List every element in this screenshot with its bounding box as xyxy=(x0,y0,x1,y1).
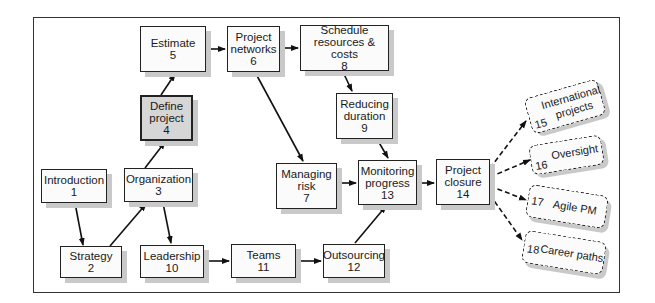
node-monitoring-progress[interactable]: Monitoring progress 13 xyxy=(358,160,417,205)
edge-9-13 xyxy=(377,139,388,158)
node-label: Estimate xyxy=(151,37,196,49)
edge-8-9 xyxy=(343,72,352,91)
node-schedule-resources-costs[interactable]: Schedule resources & costs 8 xyxy=(300,25,389,71)
node-label-line1: Define xyxy=(150,100,183,112)
node-number: 18 xyxy=(526,242,540,256)
node-label-line2: networks xyxy=(230,43,276,55)
node-project-closure[interactable]: Project closure 14 xyxy=(436,159,490,205)
node-number: 5 xyxy=(170,49,176,61)
node-teams[interactable]: Teams 11 xyxy=(231,244,296,278)
edge-1-2 xyxy=(75,203,83,245)
node-introduction[interactable]: Introduction 1 xyxy=(41,169,107,203)
node-number: 16 xyxy=(534,158,548,172)
node-number: 14 xyxy=(457,188,470,200)
node-number: 7 xyxy=(303,192,309,204)
node-number: 12 xyxy=(348,261,361,273)
edge-4-5 xyxy=(161,74,175,95)
node-number: 17 xyxy=(531,194,545,208)
edge-3-10 xyxy=(163,203,171,243)
node-define-project[interactable]: Define project 4 xyxy=(140,95,193,141)
node-label: Teams xyxy=(247,249,281,261)
node-label-line1: Reducing xyxy=(340,98,389,110)
node-label-line2: resources & costs xyxy=(301,36,388,60)
edge-12-13 xyxy=(355,206,386,243)
edge-2-3 xyxy=(110,204,146,246)
node-strategy[interactable]: Strategy 2 xyxy=(60,246,122,278)
node-number: 8 xyxy=(341,60,347,72)
node-label: Career paths xyxy=(538,242,605,264)
node-label: Strategy xyxy=(70,250,113,262)
node-label: Leadership xyxy=(144,250,201,262)
edge-14-16 xyxy=(490,160,530,177)
node-number: 9 xyxy=(361,122,367,134)
node-number: 13 xyxy=(381,189,394,201)
node-reducing-duration[interactable]: Reducing duration 9 xyxy=(336,93,393,139)
node-number: 10 xyxy=(166,262,179,274)
node-label-line1: Schedule xyxy=(321,24,369,36)
node-number: 1 xyxy=(71,186,77,198)
node-number: 2 xyxy=(88,262,94,274)
node-number: 3 xyxy=(155,185,161,197)
node-label-line1: Managing xyxy=(281,168,332,180)
node-label-line2: progress xyxy=(365,177,410,189)
edge-14-18 xyxy=(490,195,522,240)
edge-6-7 xyxy=(255,72,303,161)
node-managing-risk[interactable]: Managing risk 7 xyxy=(276,163,337,209)
node-number: 4 xyxy=(163,124,169,136)
node-organization[interactable]: Organization 3 xyxy=(124,168,193,202)
edge-14-17 xyxy=(490,186,526,200)
node-label-line1: Monitoring xyxy=(361,165,415,177)
node-estimate[interactable]: Estimate 5 xyxy=(140,26,206,72)
edge-14-15 xyxy=(490,121,526,168)
node-number: 6 xyxy=(250,55,256,67)
node-label-line1: Project xyxy=(236,31,272,43)
node-leadership[interactable]: Leadership 10 xyxy=(140,245,204,278)
node-label-line2: duration xyxy=(344,110,386,122)
node-label-line2: closure xyxy=(444,176,481,188)
node-label: Outsourcing xyxy=(323,249,385,261)
node-label-line2: project xyxy=(149,112,184,124)
node-label-line2: risk xyxy=(298,180,316,192)
node-label-line1: Project xyxy=(445,164,481,176)
node-number: 11 xyxy=(258,261,270,273)
node-label: Oversight xyxy=(546,141,603,162)
node-project-networks[interactable]: Project networks 6 xyxy=(227,26,280,72)
node-label: Organization xyxy=(126,173,191,185)
node-label: Agile PM xyxy=(543,196,606,218)
node-label: Introduction xyxy=(44,174,104,186)
edge-3-4 xyxy=(145,142,165,168)
node-outsourcing[interactable]: Outsourcing 12 xyxy=(323,244,385,278)
